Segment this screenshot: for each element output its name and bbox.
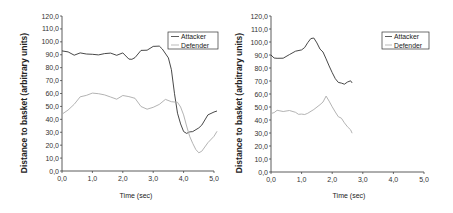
y-tick-label: 40,0 <box>254 117 268 124</box>
y-tick-label: 10,0 <box>254 156 268 163</box>
y-tick-label: 40,0 <box>45 116 59 123</box>
y-tick-label: 0,0 <box>258 169 268 176</box>
chart-left: 0,010,020,030,040,050,060,070,080,090,01… <box>0 0 226 213</box>
series-line-defender <box>62 93 217 153</box>
y-tick-label: 100,0 <box>250 39 268 46</box>
y-tick-label: 110,0 <box>251 26 268 33</box>
x-tick-label: 4,0 <box>179 175 189 182</box>
x-axis-label: Time (sec) <box>120 192 153 200</box>
x-tick-label: 0,0 <box>266 176 276 183</box>
x-axis: 0,01,02,03,04,05,0 <box>57 171 219 182</box>
y-tick-label: 30,0 <box>254 130 268 137</box>
y-tick-label: 90,0 <box>45 51 59 58</box>
y-axis: 0,010,020,030,040,050,060,070,080,090,01… <box>250 13 271 176</box>
legend-defender: Defender <box>394 42 423 49</box>
y-tick-label: 10,0 <box>45 155 59 162</box>
legend-attacker: Attacker <box>394 33 420 40</box>
y-tick-label: 100,0 <box>41 38 59 45</box>
legend: Attacker Defender <box>382 32 429 49</box>
x-tick-label: 1,0 <box>88 175 98 182</box>
legend-defender: Defender <box>181 42 210 49</box>
y-tick-label: 60,0 <box>45 90 59 97</box>
x-tick-label: 2,0 <box>327 176 337 183</box>
x-tick-label: 2,0 <box>118 175 128 182</box>
x-tick-label: 3,0 <box>358 176 368 183</box>
x-tick-label: 1,0 <box>297 176 307 183</box>
x-tick-label: 3,0 <box>148 175 158 182</box>
y-tick-label: 20,0 <box>45 142 59 149</box>
y-tick-label: 20,0 <box>254 143 268 150</box>
x-tick-label: 0,0 <box>57 175 67 182</box>
plot-lines <box>271 38 352 133</box>
legend-attacker: Attacker <box>181 33 207 40</box>
series-line-attacker <box>62 46 217 133</box>
series-line-defender <box>271 96 352 133</box>
y-tick-label: 60,0 <box>254 91 268 98</box>
y-tick-label: 50,0 <box>45 103 59 110</box>
y-tick-label: 120,0 <box>41 13 59 20</box>
x-tick-label: 5,0 <box>419 176 429 183</box>
y-axis-label: Distance to basket (arbitrary units) <box>234 33 244 173</box>
chart-right: 0,010,020,030,040,050,060,070,080,090,01… <box>226 0 453 213</box>
y-tick-label: 70,0 <box>45 77 59 84</box>
y-tick-label: 80,0 <box>254 65 268 72</box>
chart-right-svg: 0,010,020,030,040,050,060,070,080,090,01… <box>226 0 453 213</box>
y-tick-label: 0,0 <box>49 168 59 175</box>
chart-left-svg: 0,010,020,030,040,050,060,070,080,090,01… <box>0 0 226 213</box>
legend: Attacker Defender <box>168 32 218 49</box>
x-tick-label: 4,0 <box>389 176 399 183</box>
y-tick-label: 110,0 <box>42 25 59 32</box>
x-axis-label: Time (sec) <box>333 192 366 200</box>
y-tick-label: 50,0 <box>254 104 268 111</box>
y-tick-label: 80,0 <box>45 64 59 71</box>
y-tick-label: 90,0 <box>254 52 268 59</box>
y-tick-label: 30,0 <box>45 129 59 136</box>
y-tick-label: 120,0 <box>250 13 268 20</box>
y-axis-label: Distance to basket (arbitrary units) <box>19 33 29 173</box>
y-axis: 0,010,020,030,040,050,060,070,080,090,01… <box>41 13 62 175</box>
y-tick-label: 70,0 <box>254 78 268 85</box>
series-line-attacker <box>271 38 352 84</box>
x-tick-label: 5,0 <box>209 175 219 182</box>
x-axis: 0,01,02,03,04,05,0 <box>266 172 429 183</box>
plot-lines <box>62 46 217 153</box>
